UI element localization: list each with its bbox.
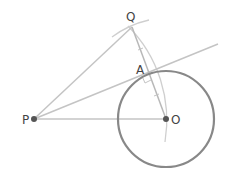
line-pq (34, 27, 132, 119)
label-q: Q (126, 10, 135, 24)
point-p (31, 116, 37, 122)
point-o (163, 116, 169, 122)
label-o: O (171, 113, 180, 127)
geometry-diagram: P O Q A (0, 0, 228, 181)
label-p: P (22, 113, 29, 127)
label-a: A (136, 63, 145, 77)
tangent-line-pa (34, 44, 218, 119)
